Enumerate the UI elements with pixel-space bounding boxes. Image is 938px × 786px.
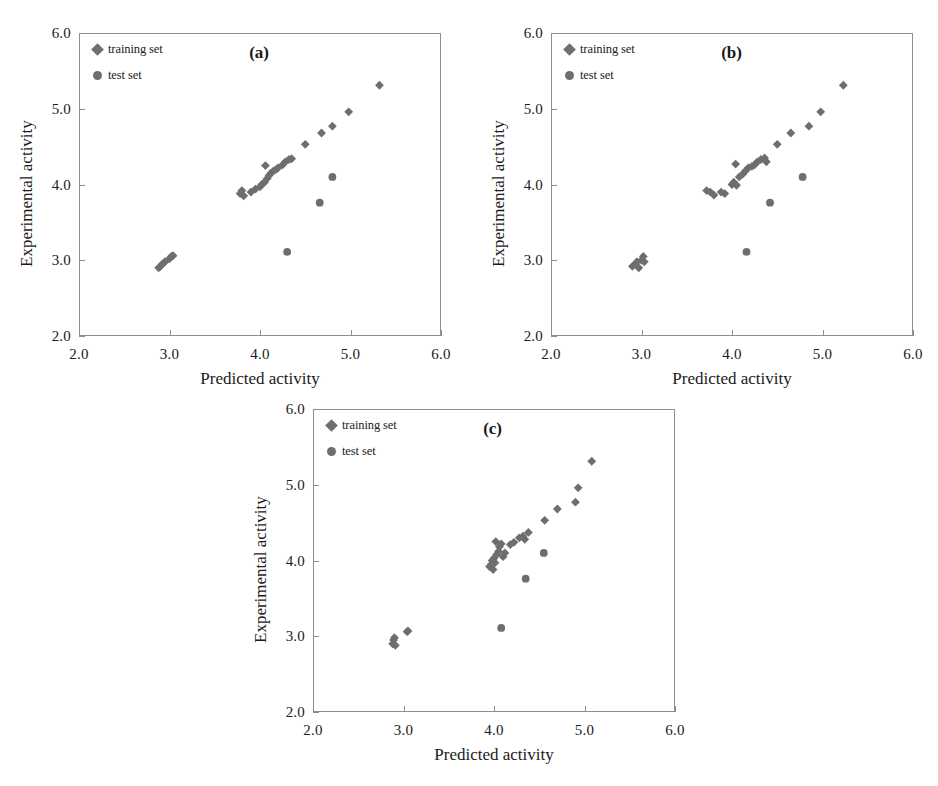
y-tick-label-a-1: 3.0	[27, 252, 71, 269]
x-tick-label-c-2: 4.0	[484, 722, 503, 739]
y-tick-c-0	[313, 712, 319, 713]
plot-frame-c	[313, 409, 675, 712]
x-tick-label-c-1: 3.0	[394, 722, 413, 739]
y-tick-label-c-2: 4.0	[261, 552, 305, 569]
x-tick-b-4	[913, 330, 914, 336]
plot-frame-a	[79, 33, 441, 336]
x-tick-a-4	[441, 330, 442, 336]
y-tick-label-b-3: 5.0	[499, 100, 543, 117]
x-tick-label-a-3: 5.0	[341, 346, 360, 363]
y-tick-b-0	[551, 336, 557, 337]
y-tick-label-a-3: 5.0	[27, 100, 71, 117]
x-axis-title-b: Predicted activity	[672, 369, 791, 389]
y-tick-label-b-1: 3.0	[499, 252, 543, 269]
y-axis-title-b: Experimental activity	[489, 120, 509, 267]
x-tick-label-a-1: 3.0	[160, 346, 179, 363]
x-tick-label-b-2: 4.0	[722, 346, 741, 363]
x-tick-label-b-3: 5.0	[813, 346, 832, 363]
x-tick-label-a-4: 6.0	[431, 346, 450, 363]
x-tick-c-4	[675, 706, 676, 712]
y-tick-label-c-0: 2.0	[261, 704, 305, 721]
x-tick-label-b-0: 2.0	[541, 346, 560, 363]
y-tick-label-c-4: 6.0	[261, 401, 305, 418]
x-tick-label-c-4: 6.0	[665, 722, 684, 739]
x-axis-title-a: Predicted activity	[200, 369, 319, 389]
x-tick-label-a-2: 4.0	[250, 346, 269, 363]
x-tick-label-b-4: 6.0	[903, 346, 922, 363]
x-axis-title-c: Predicted activity	[434, 745, 553, 765]
x-tick-label-b-1: 3.0	[632, 346, 651, 363]
y-tick-a-0	[79, 336, 85, 337]
y-tick-label-c-1: 3.0	[261, 628, 305, 645]
y-tick-label-a-4: 6.0	[27, 25, 71, 42]
y-tick-label-b-4: 6.0	[499, 25, 543, 42]
y-tick-label-c-3: 5.0	[261, 476, 305, 493]
x-tick-label-a-0: 2.0	[69, 346, 88, 363]
y-tick-label-b-0: 2.0	[499, 328, 543, 345]
plot-frame-b	[551, 33, 913, 336]
x-tick-label-c-0: 2.0	[303, 722, 322, 739]
y-axis-title-a: Experimental activity	[17, 120, 37, 267]
y-tick-label-a-2: 4.0	[27, 176, 71, 193]
x-tick-label-c-3: 5.0	[575, 722, 594, 739]
y-tick-label-a-0: 2.0	[27, 328, 71, 345]
y-axis-title-c: Experimental activity	[251, 496, 271, 643]
y-tick-label-b-2: 4.0	[499, 176, 543, 193]
